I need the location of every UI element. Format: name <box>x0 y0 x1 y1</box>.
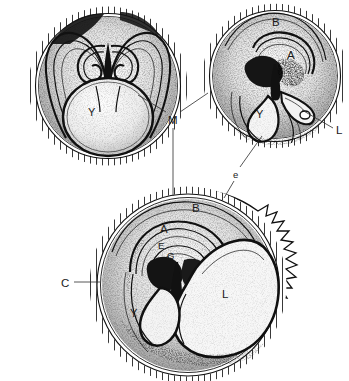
label-E-bottom: E <box>158 240 164 251</box>
plate-svg: Y <box>0 0 349 381</box>
panel-contents-tl <box>39 12 177 156</box>
label-L-bottom: L <box>222 288 229 300</box>
label-Y-top-right: Y <box>256 108 264 120</box>
label-B-top-right: B <box>272 16 280 28</box>
label-A-top-right: A <box>287 49 295 61</box>
figure-plate: Y <box>0 0 349 381</box>
label-Y-bottom: Y <box>130 307 138 319</box>
callout-label-M: M <box>168 114 178 126</box>
panel-stage-2: B A Y <box>206 7 344 150</box>
panel-stage-1: Y <box>32 10 184 162</box>
label-A-bottom: A <box>160 223 168 235</box>
label-Y-top-left: Y <box>88 106 96 118</box>
yolk-stipple-tl <box>63 78 153 156</box>
label-G-bottom: G <box>167 250 174 261</box>
callout-label-L: L <box>336 124 343 136</box>
callout-label-C: C <box>61 277 69 289</box>
callout-label-e: e <box>233 169 238 180</box>
label-B-bottom: B <box>192 202 200 214</box>
